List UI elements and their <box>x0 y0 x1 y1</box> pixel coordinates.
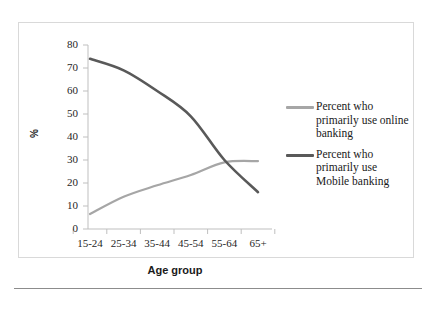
series-lines <box>90 59 258 214</box>
y-axis-ticks <box>83 45 88 229</box>
y-axis-tick-label: 80 <box>44 39 78 50</box>
y-axis-title: % <box>29 126 40 142</box>
legend-item-label: Percent who primarily use Mobile banking <box>316 148 410 189</box>
x-axis-group <box>73 229 275 234</box>
y-axis-tick-label: 30 <box>44 154 78 165</box>
legend-item-online-banking: Percent who primarily use online banking <box>286 100 410 141</box>
y-axis-group <box>83 45 88 229</box>
footer-divider <box>14 288 422 289</box>
y-axis-tick-label: 10 <box>44 200 78 211</box>
figure-container: 01020304050607080 15-2425-3435-4445-5455… <box>0 0 436 310</box>
legend-item-label: Percent who primarily use online banking <box>316 100 410 141</box>
y-axis-tick-label: 0 <box>44 223 78 234</box>
line-swatch-icon <box>286 106 314 110</box>
y-axis-tick-label: 40 <box>44 131 78 142</box>
y-axis-tick-label: 70 <box>44 62 78 73</box>
y-axis-tick-label: 20 <box>44 177 78 188</box>
x-axis-ticks <box>73 229 275 234</box>
y-axis-tick-label: 50 <box>44 108 78 119</box>
x-axis-category-label: 65+ <box>238 238 278 249</box>
y-axis-tick-label: 60 <box>44 85 78 96</box>
series-line <box>90 59 258 192</box>
legend-item-mobile-banking: Percent who primarily use Mobile banking <box>286 148 410 189</box>
line-swatch-icon <box>286 154 314 158</box>
chart-legend: Percent who primarily use online banking… <box>286 100 410 195</box>
x-axis-title: Age group <box>90 264 260 276</box>
